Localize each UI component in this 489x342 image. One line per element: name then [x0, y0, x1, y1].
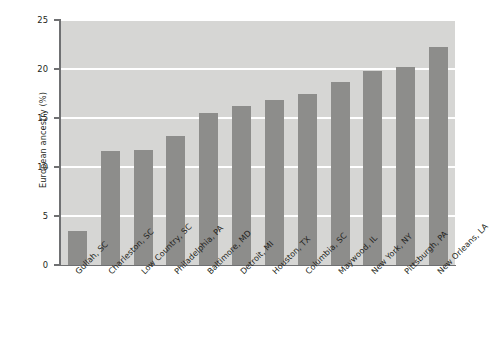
y-tick-mark: [54, 166, 60, 168]
y-tick-mark: [54, 19, 60, 21]
y-tick-mark: [54, 215, 60, 217]
gridline: [61, 19, 455, 21]
y-tick-label: 20: [8, 65, 48, 73]
y-axis-line: [59, 19, 61, 266]
y-tick-label: 15: [8, 114, 48, 122]
y-tick-mark: [54, 264, 60, 266]
y-tick-label: 0: [8, 261, 48, 269]
y-tick-label: 25: [8, 16, 48, 24]
y-tick-mark: [54, 68, 60, 70]
plot-area: [61, 20, 455, 265]
y-tick-label: 10: [8, 163, 48, 171]
y-tick-label: 5: [8, 212, 48, 220]
y-tick-mark: [54, 117, 60, 119]
y-axis-title: European ancestry (%): [38, 60, 48, 220]
